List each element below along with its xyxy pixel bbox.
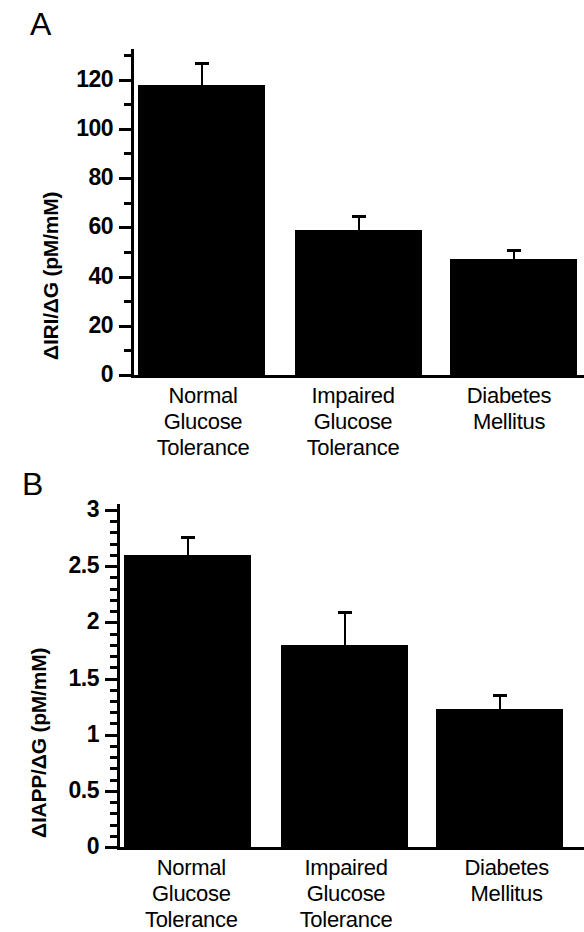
- error-bar: [295, 215, 422, 234]
- error-bar: [124, 536, 251, 559]
- x-axis-line: [131, 375, 584, 378]
- y-axis-minor-tick: [110, 812, 117, 815]
- y-axis-tick-label: 100: [1, 117, 113, 140]
- y-axis-minor-tick: [110, 756, 117, 759]
- y-axis-major-tick: [119, 79, 131, 82]
- error-bar-cap: [195, 62, 209, 65]
- y-axis-major-tick: [105, 678, 117, 681]
- panel-a-letter: A: [30, 8, 51, 40]
- x-axis-category-label: DiabetesMellitus: [429, 855, 584, 932]
- figure-bar-charts: A ΔIRI/ΔG (pM/mM) 020406080100120 Normal…: [0, 0, 584, 932]
- panel-a: A ΔIRI/ΔG (pM/mM) 020406080100120 Normal…: [0, 0, 584, 466]
- error-bar-cap: [507, 249, 521, 252]
- y-axis-minor-tick: [124, 349, 131, 352]
- y-axis-minor-tick: [110, 644, 117, 647]
- y-axis-tick-label: 3: [0, 498, 99, 521]
- error-bar-stem: [344, 611, 346, 649]
- bar: [281, 645, 408, 847]
- panel-b-letter: B: [22, 468, 43, 500]
- y-axis-minor-tick: [110, 745, 117, 748]
- x-axis-category-label: ImpairedGlucoseTolerance: [278, 383, 428, 461]
- bar: [436, 709, 563, 847]
- error-bar-cap: [181, 536, 195, 539]
- y-axis-line: [131, 49, 134, 378]
- y-axis-minor-tick: [124, 54, 131, 57]
- y-axis-tick-label: 60: [1, 215, 113, 238]
- y-axis-major-tick: [105, 846, 117, 849]
- y-axis-minor-tick: [124, 202, 131, 205]
- y-axis-major-tick: [105, 734, 117, 737]
- y-axis-tick-label: 2.5: [0, 554, 99, 577]
- error-bar: [281, 611, 408, 649]
- error-bar: [138, 62, 265, 89]
- y-axis-minor-tick: [110, 779, 117, 782]
- y-axis-minor-tick: [110, 543, 117, 546]
- panel-b-category-labels: NormalGlucoseToleranceImpairedGlucoseTol…: [114, 855, 584, 932]
- y-axis-minor-tick: [110, 576, 117, 579]
- y-axis-minor-tick: [110, 599, 117, 602]
- x-axis-line: [117, 847, 584, 850]
- error-bar-cap: [493, 694, 507, 697]
- y-axis-tick-label: 40: [1, 265, 113, 288]
- bar: [124, 555, 251, 847]
- y-axis-minor-tick: [124, 251, 131, 254]
- y-axis-tick-label: 0: [0, 835, 99, 858]
- y-axis-minor-tick: [124, 103, 131, 106]
- y-axis-minor-tick: [110, 824, 117, 827]
- y-axis-minor-tick: [110, 711, 117, 714]
- y-axis-tick-label: 0.5: [0, 779, 99, 802]
- y-axis-tick-label: 20: [1, 314, 113, 337]
- bar: [138, 85, 265, 375]
- error-bar-cap: [338, 611, 352, 614]
- y-axis-minor-tick: [110, 531, 117, 534]
- bar: [450, 259, 577, 375]
- y-axis-minor-tick: [110, 801, 117, 804]
- y-axis-tick-label: 120: [1, 68, 113, 91]
- error-bar-stem: [201, 62, 203, 89]
- y-axis-tick-label: 80: [1, 166, 113, 189]
- y-axis-minor-tick: [110, 633, 117, 636]
- x-axis-category-label: ImpairedGlucoseTolerance: [269, 855, 424, 932]
- panel-a-category-labels: NormalGlucoseToleranceImpairedGlucoseTol…: [128, 383, 584, 461]
- y-axis-major-tick: [119, 128, 131, 131]
- x-axis-category-label: NormalGlucoseTolerance: [114, 855, 269, 932]
- y-axis-tick-label: 1.5: [0, 667, 99, 690]
- y-axis-minor-tick: [110, 666, 117, 669]
- y-axis-minor-tick: [110, 610, 117, 613]
- y-axis-major-tick: [119, 226, 131, 229]
- y-axis-major-tick: [119, 374, 131, 377]
- y-axis-minor-tick: [110, 554, 117, 557]
- y-axis-minor-tick: [110, 767, 117, 770]
- error-bar: [436, 694, 563, 713]
- y-axis-minor-tick: [110, 588, 117, 591]
- y-axis-minor-tick: [124, 152, 131, 155]
- y-axis-major-tick: [105, 509, 117, 512]
- y-axis-major-tick: [119, 177, 131, 180]
- panel-b: B ΔIAPP/ΔG (pM/mM) 00.511.522.53 NormalG…: [0, 466, 584, 932]
- y-axis-major-tick: [105, 565, 117, 568]
- error-bar: [450, 249, 577, 263]
- y-axis-major-tick: [119, 276, 131, 279]
- y-axis-tick-label: 2: [0, 610, 99, 633]
- y-axis-tick-label: 1: [0, 723, 99, 746]
- y-axis-minor-tick: [110, 722, 117, 725]
- error-bar-cap: [352, 215, 366, 218]
- y-axis-minor-tick: [110, 520, 117, 523]
- error-bar-stem: [187, 536, 189, 559]
- y-axis-minor-tick: [124, 300, 131, 303]
- y-axis-major-tick: [119, 325, 131, 328]
- y-axis-minor-tick: [110, 700, 117, 703]
- bar: [295, 230, 422, 375]
- y-axis-line: [117, 504, 120, 850]
- x-axis-category-label: DiabetesMellitus: [434, 383, 584, 461]
- x-axis-category-label: NormalGlucoseTolerance: [128, 383, 278, 461]
- y-axis-major-tick: [105, 621, 117, 624]
- y-axis-major-tick: [105, 790, 117, 793]
- y-axis-minor-tick: [110, 689, 117, 692]
- y-axis-tick-label: 0: [1, 363, 113, 386]
- y-axis-minor-tick: [110, 835, 117, 838]
- y-axis-minor-tick: [110, 655, 117, 658]
